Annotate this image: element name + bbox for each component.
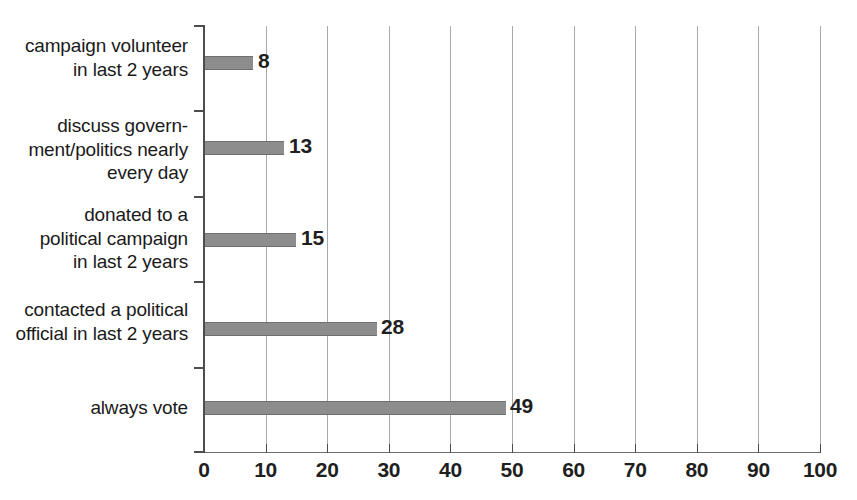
bar-always-vote [204, 401, 506, 415]
category-tick-bottom [194, 451, 204, 453]
x-axis-tick-label: 90 [728, 458, 788, 482]
gridline-90 [758, 26, 759, 452]
category-label-line: ment/politics nearly [0, 138, 188, 162]
category-label-line: discuss govern- [0, 114, 188, 138]
x-tick-50 [512, 444, 513, 453]
category-label-line: political campaign [0, 227, 188, 251]
bar-discuss-government [204, 141, 284, 155]
category-label-always-vote: always vote [0, 396, 188, 420]
gridline-40 [450, 26, 451, 452]
x-axis-tick-label: 50 [482, 458, 542, 482]
x-tick-30 [389, 444, 390, 453]
category-label-donated-campaign: donated to a political campaign in last … [0, 203, 188, 274]
category-tick-2 [194, 196, 204, 198]
category-label-line: every day [0, 161, 188, 185]
x-tick-10 [266, 444, 267, 453]
x-tick-60 [574, 444, 575, 453]
bar-contacted-official [204, 322, 377, 336]
x-tick-20 [327, 444, 328, 453]
category-label-contacted-official: contacted a political official in last 2… [0, 298, 188, 345]
x-tick-80 [697, 444, 698, 453]
gridline-70 [635, 26, 636, 452]
category-label-campaign-volunteer: campaign volunteer in last 2 years [0, 34, 188, 81]
category-label-discuss-government: discuss govern- ment/politics nearly eve… [0, 114, 188, 185]
category-tick-1 [194, 110, 204, 112]
category-tick-3 [194, 281, 204, 283]
gridline-50 [512, 26, 513, 452]
category-label-line: donated to a [0, 203, 188, 227]
bar-value-label-contacted-official: 28 [381, 316, 404, 337]
category-tick-top [194, 25, 204, 27]
x-tick-100 [820, 444, 821, 453]
bar-value-label-campaign-volunteer: 8 [258, 50, 269, 71]
x-axis-tick-label: 30 [359, 458, 419, 482]
x-axis-tick-label: 20 [297, 458, 357, 482]
bar-value-label-discuss-government: 13 [289, 135, 312, 156]
plot-area [204, 26, 820, 452]
category-label-line: always vote [0, 396, 188, 420]
bar-value-label-donated-campaign: 15 [301, 227, 324, 248]
gridline-100 [820, 26, 821, 452]
x-tick-0 [204, 444, 205, 453]
bar-donated-campaign [204, 233, 296, 247]
category-label-line: in last 2 years [0, 58, 188, 82]
gridline-20 [327, 26, 328, 452]
gridline-80 [697, 26, 698, 452]
category-label-line: official in last 2 years [0, 322, 188, 346]
category-label-line: campaign volunteer [0, 34, 188, 58]
x-axis-tick-label: 0 [174, 458, 234, 482]
bar-campaign-volunteer [204, 56, 253, 70]
x-axis-tick-label: 100 [790, 458, 850, 482]
x-tick-40 [450, 444, 451, 453]
x-axis-tick-label: 40 [420, 458, 480, 482]
x-axis-tick-label: 10 [236, 458, 296, 482]
y-axis-line [203, 25, 205, 453]
x-tick-90 [758, 444, 759, 453]
x-axis-tick-label: 70 [605, 458, 665, 482]
x-tick-70 [635, 444, 636, 453]
category-label-line: contacted a political [0, 298, 188, 322]
bar-value-label-always-vote: 49 [510, 395, 533, 416]
x-axis-tick-label: 80 [667, 458, 727, 482]
bar-chart: campaign volunteer in last 2 years discu… [0, 0, 857, 500]
category-label-line: in last 2 years [0, 250, 188, 274]
x-axis-tick-label: 60 [544, 458, 604, 482]
category-tick-4 [194, 367, 204, 369]
gridline-30 [389, 26, 390, 452]
gridline-60 [574, 26, 575, 452]
